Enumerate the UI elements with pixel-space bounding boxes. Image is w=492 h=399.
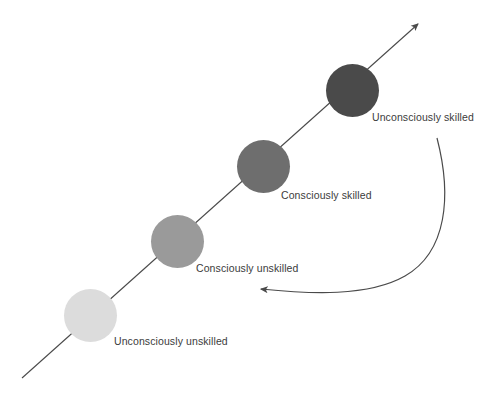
stage-circle-consciously-unskilled — [151, 215, 204, 268]
stage-label-unconsciously-unskilled: Unconsciously unskilled — [114, 336, 228, 347]
competence-diagram: Unconsciously unskilled Consciously unsk… — [0, 0, 492, 399]
stage-circle-consciously-skilled — [237, 140, 290, 193]
stage-label-consciously-unskilled: Consciously unskilled — [196, 263, 298, 274]
diagram-vector-layer — [0, 0, 492, 399]
stage-circle-unconsciously-skilled — [326, 64, 379, 117]
stage-circle-unconsciously-unskilled — [64, 289, 117, 342]
stage-label-unconsciously-skilled: Unconsciously skilled — [372, 112, 474, 123]
stage-label-consciously-skilled: Consciously skilled — [281, 190, 372, 201]
